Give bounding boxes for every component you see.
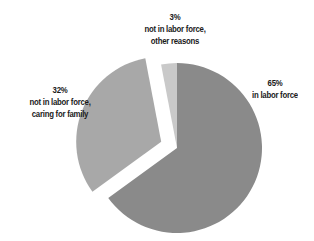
label-family-line2: caring for family	[11, 108, 109, 120]
label-other-line1: not in labor force,	[130, 23, 220, 35]
label-labor-line1: in labor force	[243, 89, 307, 101]
label-caring-for-family: 32% not in labor force, caring for famil…	[11, 84, 109, 120]
pie-slice-not-in-labor-force-other-reasons	[161, 63, 177, 148]
label-other-pct: 3%	[130, 11, 220, 23]
label-other-line2: other reasons	[130, 35, 220, 47]
label-in-labor-force: 65% in labor force	[243, 77, 307, 101]
label-other-reasons: 3% not in labor force, other reasons	[130, 11, 220, 47]
pie-chart: 3% not in labor force, other reasons 32%…	[0, 0, 314, 241]
label-labor-pct: 65%	[243, 77, 307, 89]
label-family-pct: 32%	[11, 84, 109, 96]
label-family-line1: not in labor force,	[11, 96, 109, 108]
